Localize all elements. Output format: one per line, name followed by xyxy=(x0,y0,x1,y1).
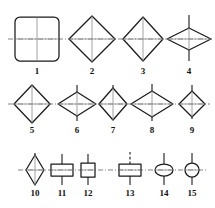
figure-container: 123456789101112131415 xyxy=(0,0,215,208)
symbol-6 xyxy=(58,85,96,121)
symbol-label-6: 6 xyxy=(75,125,80,135)
symbol-9 xyxy=(179,85,205,119)
symbol-3 xyxy=(123,17,163,61)
cross-section-symbols-diagram: 123456789101112131415 xyxy=(0,0,215,208)
symbol-label-9: 9 xyxy=(190,125,195,135)
symbol-label-11: 11 xyxy=(58,188,67,198)
symbol-label-15: 15 xyxy=(188,188,198,198)
symbol-1 xyxy=(15,17,59,61)
symbol-label-2: 2 xyxy=(90,66,95,76)
symbol-10 xyxy=(26,153,44,185)
symbol-label-3: 3 xyxy=(141,66,146,76)
symbol-4 xyxy=(167,15,211,61)
symbol-label-13: 13 xyxy=(126,188,136,198)
symbol-label-8: 8 xyxy=(150,125,155,135)
symbol-8 xyxy=(131,84,173,121)
symbol-label-4: 4 xyxy=(187,66,192,76)
symbol-15 xyxy=(185,153,199,185)
symbol-label-14: 14 xyxy=(160,188,170,198)
symbol-label-10: 10 xyxy=(31,188,41,198)
symbol-label-1: 1 xyxy=(35,66,40,76)
symbol-label-7: 7 xyxy=(111,125,116,135)
symbol-13 xyxy=(119,152,141,185)
symbol-12 xyxy=(81,154,95,185)
symbol-label-5: 5 xyxy=(30,125,35,135)
symbol-label-12: 12 xyxy=(84,188,94,198)
symbol-shapes-layer xyxy=(14,15,211,185)
symbol-7 xyxy=(99,85,127,120)
symbol-2 xyxy=(69,16,115,62)
symbol-5 xyxy=(14,85,50,123)
centerline-connectors xyxy=(8,39,212,170)
symbol-11 xyxy=(51,154,73,185)
symbol-14 xyxy=(155,153,173,185)
